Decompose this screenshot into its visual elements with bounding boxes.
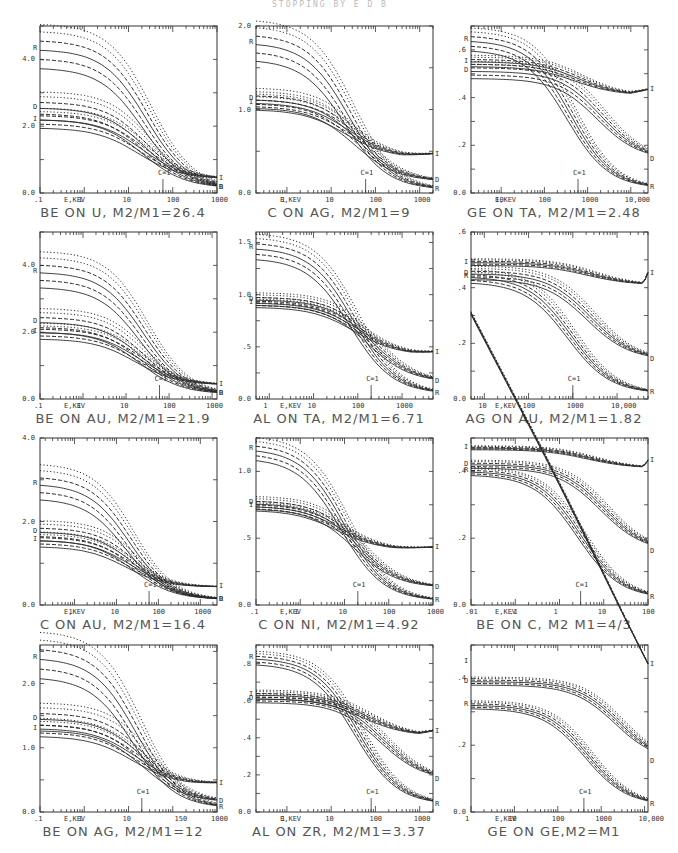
y-tick-label: 0.0 — [223, 395, 251, 403]
y-tick-label: .4 — [438, 94, 466, 102]
curve-group-label: R — [249, 444, 253, 452]
curve-d — [471, 679, 648, 744]
curve-end-label: D — [650, 757, 654, 765]
y-tick-label: 0.0 — [7, 189, 35, 197]
y-tick-label: .4 — [438, 467, 466, 475]
curve-r — [256, 651, 433, 799]
plot-frame — [40, 645, 217, 812]
chart-panel: 0.0.51.01.51101001000E,KEVC=1RDIRDIAL ON… — [216, 222, 442, 432]
chart-caption: BE ON AG, M2/M1=12 — [10, 824, 236, 839]
x-axis-label: E,KEV — [495, 196, 516, 204]
curve-r — [256, 656, 433, 800]
curve-group-label: R — [33, 479, 37, 487]
chart-caption: GE ON GE,M2=M1 — [441, 824, 667, 839]
x-tick-label: 1000 — [567, 402, 584, 410]
curve-group-label: D — [33, 103, 37, 111]
y-tick-label: 4.0 — [7, 434, 35, 442]
chart-caption: C ON AU, M2/M1=16.4 — [10, 617, 236, 632]
curve-r — [256, 53, 433, 187]
curve-group-label: D — [33, 527, 37, 535]
x-tick-label: 100 — [369, 815, 382, 823]
curve-group-label: R — [249, 38, 253, 46]
y-tick-label: 0.0 — [223, 601, 251, 609]
chart-panel: 0.0.2.4.610100100010,000E,KEVC=1RIDRIDGE… — [431, 16, 657, 226]
chart-caption: AL ON TA, M2/M1=6.71 — [226, 411, 452, 426]
y-tick-label: .4 — [438, 674, 466, 682]
y-tick-label: .6 — [438, 46, 466, 54]
y-tick-label: 0.0 — [223, 808, 251, 816]
curve-d — [471, 72, 648, 152]
chart-caption: AL ON ZR, M2/M1=3.37 — [226, 824, 452, 839]
curve-d — [471, 684, 648, 748]
y-tick-label: 1.0 — [7, 744, 35, 752]
chart-panel: 0.0.2.4.6.81101001000E,KEVC=1RIDRIDAL ON… — [216, 635, 442, 845]
curve-r — [256, 36, 433, 186]
curve-end-label: D — [650, 155, 654, 163]
curve-group-label: R — [464, 700, 468, 708]
chart-panel: 0.02.04.01101001000E,KEVC=1RDIRDIC ON AU… — [0, 428, 226, 638]
curve-r — [256, 654, 433, 800]
x-tick-label: 100 — [523, 402, 536, 410]
curve-group-label: I — [464, 57, 468, 65]
y-tick-label: 2.0 — [7, 122, 35, 130]
curve-d — [256, 504, 433, 585]
y-tick-label: .2 — [438, 141, 466, 149]
x-tick-label: 100 — [163, 402, 176, 410]
curve-end-label: R — [650, 593, 654, 601]
y-tick-label: .2 — [438, 534, 466, 542]
curve-group-label: R — [33, 267, 37, 275]
plot-frame — [471, 26, 648, 193]
x-axis-label: E,KEV — [64, 196, 85, 204]
x-tick-label: .1 — [34, 815, 42, 823]
y-tick-label: 0.0 — [438, 189, 466, 197]
curve-i — [40, 538, 217, 587]
x-tick-label: 1000 — [414, 815, 431, 823]
x-tick-label: 10,000 — [611, 402, 636, 410]
x-tick-label: 1000 — [414, 196, 431, 204]
curve-r — [471, 37, 648, 185]
curve-d — [471, 685, 648, 749]
c-equals-one-label: C=1 — [158, 169, 171, 177]
x-axis-label: E,KEV — [495, 815, 516, 823]
curve-i — [256, 107, 433, 155]
x-tick-label: 1000 — [194, 608, 211, 616]
x-tick-label: 10 — [339, 608, 347, 616]
curve-group-label: R — [33, 44, 37, 52]
curve-d — [471, 266, 648, 353]
y-tick-label: 0.0 — [438, 395, 466, 403]
y-tick-label: .4 — [438, 284, 466, 292]
x-tick-label: 10 — [308, 402, 316, 410]
curve-d — [256, 298, 433, 378]
curve-group-label: R — [249, 653, 253, 661]
curve-i — [40, 737, 217, 783]
curve-r — [471, 42, 648, 185]
curve-r — [40, 465, 217, 598]
x-axis-label: E,KEV — [64, 402, 85, 410]
chart-panel: 0.02.04.0.11101001000E,KEVC=1RDIRDIBE ON… — [0, 222, 226, 432]
curve-group-label: D — [33, 317, 37, 325]
y-tick-label: .6 — [223, 697, 251, 705]
x-tick-label: 10 — [123, 196, 131, 204]
c-equals-one-label: C=1 — [144, 581, 157, 589]
curve-group-label: I — [33, 535, 37, 543]
y-tick-label: 0.0 — [7, 808, 35, 816]
curve-i — [40, 725, 217, 782]
chart-panel: 0.02.04.0.11101001000E,KEVC=1RDIRDIBE ON… — [0, 16, 226, 226]
curve-d — [471, 280, 648, 356]
c-equals-one-label: C=1 — [155, 375, 168, 383]
x-tick-label: 100 — [552, 815, 565, 823]
curve-r — [471, 275, 648, 390]
y-tick-label: .5 — [223, 534, 251, 542]
curve-group-label: D — [464, 677, 468, 685]
x-tick-label: .1 — [34, 402, 42, 410]
curve-r — [256, 446, 433, 598]
curve-group-label: R — [33, 653, 37, 661]
curve-end-label: I — [650, 660, 654, 668]
x-tick-label: 10 — [120, 402, 128, 410]
curve-r — [471, 702, 648, 799]
curve-end-label: R — [650, 183, 654, 191]
x-axis-label: E,KEV — [64, 608, 85, 616]
curve-i — [471, 259, 648, 282]
curve-i — [40, 718, 217, 782]
curve-r — [256, 21, 433, 186]
